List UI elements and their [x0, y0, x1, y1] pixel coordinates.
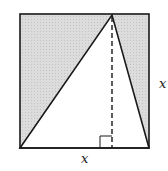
right-side-label: x: [159, 76, 166, 91]
bottom-side-label: x: [81, 151, 88, 166]
geometry-figure: [0, 0, 168, 171]
